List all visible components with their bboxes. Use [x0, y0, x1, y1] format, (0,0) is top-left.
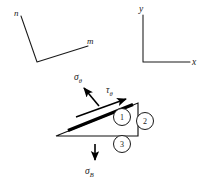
sigma-theta-group: σθ: [74, 72, 99, 106]
sigma-b-group: σB: [85, 144, 95, 178]
axes-polyline: [143, 15, 190, 62]
axis-label-x: x: [191, 57, 197, 67]
face-marker-2-label: 2: [143, 117, 147, 126]
axis-label-y: y: [138, 4, 144, 14]
sigma-b-label: σB: [85, 166, 94, 178]
face-marker-1-label: 1: [120, 113, 124, 122]
label-m: m: [87, 36, 94, 46]
sigma-theta-subscript: θ: [79, 77, 83, 84]
label-n: n: [14, 8, 19, 18]
xy-axes: y x: [138, 4, 197, 67]
face-marker-2: 2: [137, 113, 154, 130]
figure-canvas: n m y x σθ τθ: [0, 0, 202, 180]
nm-polyline: [21, 16, 88, 62]
sigma-theta-arrow: [84, 88, 99, 106]
face-marker-3-label: 3: [120, 140, 124, 149]
sigma-b-subscript: B: [90, 171, 94, 178]
face-marker-3: 3: [114, 136, 131, 153]
sigma-theta-label: σθ: [74, 72, 83, 84]
figure-root: n m y x σθ τθ: [0, 0, 202, 180]
face-marker-1: 1: [114, 109, 131, 126]
tau-theta-subscript: θ: [109, 90, 113, 97]
angle-marker-nm: n m: [14, 8, 94, 62]
tau-theta-label: τθ: [106, 85, 113, 97]
